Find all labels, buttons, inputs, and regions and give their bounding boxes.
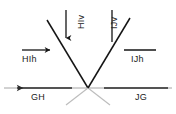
descending-diagonal [47, 20, 110, 105]
label-gh: GH [31, 93, 45, 102]
label-ij-vertical: IJv [110, 17, 119, 29]
ascending-diagonal [66, 18, 130, 105]
label-hi-horizontal: HIh [22, 55, 37, 64]
label-ij-horizontal: IJh [131, 55, 144, 64]
label-hi-vertical: HIv [77, 15, 86, 29]
label-jg: JG [135, 93, 147, 102]
vector-diagram: HIv IJv HIh IJh GH JG [0, 0, 176, 114]
